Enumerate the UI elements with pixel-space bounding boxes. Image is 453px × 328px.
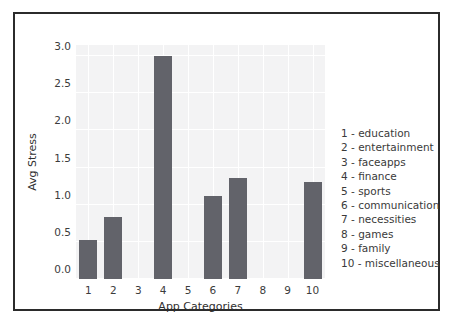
legend-entry-5: 5 - sports [341, 184, 453, 198]
plot-area [76, 45, 325, 279]
y-tick-label: 2.0 [25, 115, 71, 125]
x-tick-label: 6 [200, 284, 226, 296]
y-tick-label: 1.0 [25, 190, 71, 200]
legend: 1 - education2 - entertainment3 - faceap… [341, 126, 453, 270]
legend-entry-10: 10 - miscellaneous [341, 256, 453, 270]
x-tick-label: 8 [250, 284, 276, 296]
figure-frame: 0.00.51.01.52.02.53.0 Avg Stress 1234567… [13, 12, 440, 311]
legend-entry-9: 9 - family [341, 241, 453, 255]
y-tick-label: 3.0 [25, 41, 71, 51]
y-tick-label: 0.5 [25, 227, 71, 237]
figure-canvas: 0.00.51.01.52.02.53.0 Avg Stress 1234567… [0, 0, 453, 328]
bar-2 [104, 217, 122, 279]
legend-entry-8: 8 - games [341, 227, 453, 241]
bar-1 [79, 240, 97, 279]
legend-entry-6: 6 - communication [341, 198, 453, 212]
x-axis-label: App Categories [76, 300, 325, 313]
x-tick-label: 10 [300, 284, 326, 296]
y-tick-label: 0.0 [25, 264, 71, 274]
y-tick-label: 2.5 [25, 78, 71, 88]
gridline-vertical [288, 45, 289, 279]
legend-entry-2: 2 - entertainment [341, 140, 453, 154]
x-tick-label: 4 [150, 284, 176, 296]
bar-10 [304, 182, 322, 279]
x-tick-label: 2 [100, 284, 126, 296]
bar-4 [154, 56, 172, 279]
legend-entry-7: 7 - necessities [341, 212, 453, 226]
y-axis-label: Avg Stress [26, 133, 39, 191]
bar-6 [204, 196, 222, 279]
x-tick-label: 1 [75, 284, 101, 296]
gridline-vertical [263, 45, 264, 279]
legend-entry-4: 4 - finance [341, 169, 453, 183]
x-axis-ticks: 12345678910 [76, 284, 325, 300]
legend-entry-3: 3 - faceapps [341, 155, 453, 169]
gridline-vertical [188, 45, 189, 279]
bar-7 [229, 178, 247, 279]
x-tick-label: 5 [175, 284, 201, 296]
x-tick-label: 9 [275, 284, 301, 296]
x-tick-label: 7 [225, 284, 251, 296]
x-tick-label: 3 [125, 284, 151, 296]
gridline-vertical [138, 45, 139, 279]
legend-entry-1: 1 - education [341, 126, 453, 140]
